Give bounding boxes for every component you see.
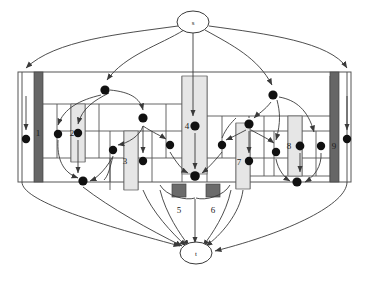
node-5-label: 5: [177, 205, 182, 215]
node-7-label: 7: [237, 157, 242, 167]
edge-s-to-8: [205, 30, 272, 85]
dot: [190, 171, 200, 181]
dot: [22, 135, 30, 143]
node-7[interactable]: 7: [236, 123, 250, 189]
node-4-label: 4: [185, 121, 190, 131]
sink-node[interactable]: t: [180, 242, 212, 264]
edge-s-to-1: [26, 26, 178, 68]
edge-s-to-9: [209, 26, 347, 68]
dot: [190, 121, 199, 130]
dot: [100, 85, 109, 94]
node-9-label: 9: [332, 141, 337, 151]
edge-rightcol-to-merge: [305, 153, 321, 182]
node-5[interactable]: 5: [172, 184, 186, 215]
dot: [74, 129, 82, 137]
dot: [296, 142, 305, 151]
node-1-label: 1: [36, 128, 41, 138]
dot: [343, 135, 351, 143]
dot: [244, 119, 253, 128]
dot: [109, 146, 117, 154]
dot: [268, 90, 277, 99]
dot: [54, 130, 62, 138]
node-2-label: 2: [70, 128, 75, 138]
dot: [138, 113, 147, 122]
node-6[interactable]: 6: [206, 184, 220, 215]
edge-col-to-rightdot: [143, 126, 166, 139]
source-node[interactable]: s: [177, 11, 209, 33]
edge-3dot-to-merge: [90, 158, 112, 181]
edge-toprdot-to-8col: [276, 100, 280, 140]
node-6-label: 6: [211, 205, 216, 215]
node-1[interactable]: 1: [34, 72, 43, 182]
dot: [166, 141, 174, 149]
dot: [139, 157, 147, 165]
node-8-label: 8: [287, 141, 292, 151]
dot: [292, 177, 301, 186]
dot: [218, 141, 226, 149]
dot: [78, 176, 87, 185]
source-label: s: [192, 19, 195, 27]
dot: [245, 157, 253, 165]
dot: [272, 148, 280, 156]
edge-9-to-t: [215, 182, 347, 251]
edge-7top-to-8left: [251, 130, 274, 143]
network-diagram-svg: 1 2 3 4 5 6 7 8 9: [0, 0, 371, 282]
edge-dot-to-3col: [110, 90, 143, 110]
figure-canvas: 1 2 3 4 5 6 7 8 9: [0, 0, 371, 282]
node-3-label: 3: [123, 156, 128, 166]
sink-label: t: [195, 250, 197, 258]
dot: [317, 142, 325, 150]
edge-7-to-t: [206, 190, 243, 246]
edge-7leftdot-up: [222, 118, 236, 138]
edge-2merge-to-t: [83, 187, 182, 246]
node-9[interactable]: 9: [330, 72, 339, 182]
